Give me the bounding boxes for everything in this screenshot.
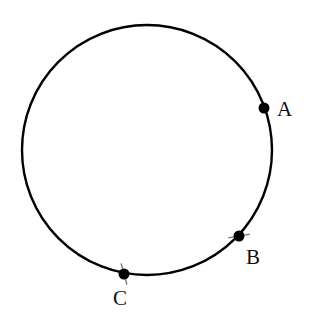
point-c [119, 269, 130, 280]
point-a [259, 103, 270, 114]
label-c: C [113, 286, 127, 310]
point-b [234, 231, 245, 242]
label-a: A [277, 97, 293, 121]
label-b: B [246, 245, 260, 269]
circle-diagram: A B C [0, 0, 314, 319]
